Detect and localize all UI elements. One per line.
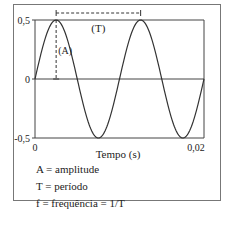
y-tick-label: 0,5 — [18, 15, 31, 26]
legend-line-period: T = período — [36, 180, 88, 192]
period-label: (T) — [91, 22, 105, 35]
legend-line-frequency: f = frequência = 1/T — [36, 197, 125, 209]
x-tick-label: 0,02 — [187, 142, 205, 153]
y-tick-label: -0,5 — [14, 133, 30, 144]
x-axis-label: Tempo (s) — [96, 148, 141, 161]
legend-line-amplitude: A = amplitude — [36, 163, 99, 175]
amplitude-label: (A) — [58, 45, 72, 57]
x-tick-label: 0 — [33, 142, 38, 153]
y-tick-label: 0 — [25, 74, 30, 85]
chart: 0,50-0,500,02(A)(T) Tempo (s) A = amplit… — [0, 0, 230, 228]
